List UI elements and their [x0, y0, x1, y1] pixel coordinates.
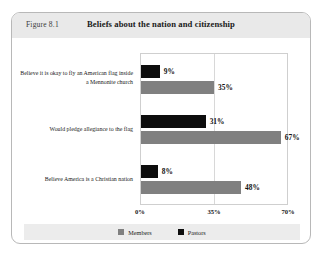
legend-label-pastors: Pastors [188, 229, 206, 236]
bar-pastors[interactable] [141, 165, 158, 178]
x-tick-label: 0% [135, 208, 145, 215]
bar-row-members: 67% [141, 131, 287, 144]
figure-title: Beliefs about the nation and citizenship [12, 19, 310, 29]
bar-group: 9% 35% [141, 54, 287, 104]
figure-page: Figure 8.1 Beliefs about the nation and … [0, 0, 324, 258]
category-axis-labels: Believe it is okay to fly an American fl… [18, 53, 138, 205]
bar-groups: 9% 35% 31% 6 [141, 54, 287, 204]
bar-value-pastors: 31% [206, 117, 225, 126]
bar-pastors[interactable] [141, 115, 206, 128]
x-tick-label: 70% [281, 208, 294, 215]
bar-pastors[interactable] [141, 65, 160, 78]
legend-swatch-members-icon [118, 229, 124, 235]
bar-row-pastors: 8% [141, 165, 287, 178]
figure-card: Figure 8.1 Beliefs about the nation and … [11, 12, 311, 244]
bar-row-pastors: 31% [141, 115, 287, 128]
bar-value-pastors: 9% [160, 67, 175, 76]
bar-row-members: 48% [141, 181, 287, 194]
category-label: Believe it is okay to fly an American fl… [18, 53, 138, 103]
bar-group: 8% 48% [141, 154, 287, 204]
bar-row-pastors: 9% [141, 65, 287, 78]
bar-members[interactable] [141, 131, 281, 144]
category-label: Would pledge allegiance to the flag [18, 104, 138, 154]
bar-chart: Believe it is okay to fly an American fl… [12, 38, 311, 244]
bar-group: 31% 67% [141, 104, 287, 154]
chart-legend: Members Pastors [12, 224, 311, 240]
x-tick-label: 35% [207, 208, 220, 215]
bar-value-pastors: 8% [158, 167, 173, 176]
legend-item-pastors[interactable]: Pastors [178, 229, 206, 236]
legend-item-members[interactable]: Members [118, 229, 151, 236]
bar-value-members: 48% [241, 183, 260, 192]
legend-label-members: Members [128, 229, 151, 236]
x-axis: 0% 35% 70% [140, 206, 288, 220]
bar-value-members: 35% [214, 83, 233, 92]
category-label: Believe America is a Christian nation [18, 155, 138, 205]
plot-area: 9% 35% 31% 6 [140, 53, 288, 205]
legend-swatch-pastors-icon [178, 229, 184, 235]
figure-header: Figure 8.1 Beliefs about the nation and … [12, 13, 310, 38]
bar-row-members: 35% [141, 81, 287, 94]
bar-value-members: 67% [281, 133, 300, 142]
bar-members[interactable] [141, 181, 241, 194]
bar-members[interactable] [141, 81, 214, 94]
